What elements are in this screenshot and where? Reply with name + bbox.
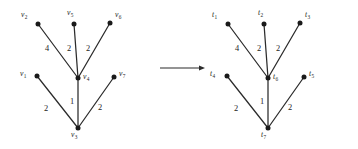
vertex-label-subscript: 4	[212, 73, 215, 79]
transformation-arrow	[160, 65, 205, 70]
vertex-label-subscript: 3	[307, 14, 310, 20]
vertex-label-t4: t4	[210, 70, 215, 78]
graph-canvas	[0, 0, 358, 149]
vertex-label-t2: t2	[258, 9, 263, 17]
vertex-label-v2: v2	[21, 11, 27, 19]
edge-v6-v4	[78, 23, 110, 78]
edge-v7-v3	[78, 77, 114, 128]
vertex-v3[interactable]	[76, 126, 81, 131]
vertex-label-subscript: 6	[275, 76, 278, 82]
vertex-t2[interactable]	[262, 22, 267, 27]
vertex-v2[interactable]	[36, 22, 41, 27]
vertex-label-subscript: 5	[311, 73, 314, 79]
vertex-label-t6: t6	[273, 73, 278, 81]
vertex-label-base: v	[119, 69, 122, 78]
edge-v2-v4	[38, 24, 78, 78]
figure-root: v1v2v3v4v5v6v7422212t1t2t3t4t5t6t7422212	[0, 0, 358, 149]
edge-weight-t6-t7: 1	[260, 98, 264, 106]
vertex-v7[interactable]	[112, 75, 117, 80]
edge-t1-t6	[228, 24, 268, 78]
vertex-label-v3: v3	[71, 131, 77, 139]
edge-weight-v7-v3: 2	[98, 104, 102, 112]
edge-weight-v5-v4: 2	[67, 45, 71, 53]
vertex-label-subscript: 2	[260, 12, 263, 18]
edge-t2-t6	[264, 24, 268, 78]
vertex-label-base: v	[83, 72, 86, 81]
vertex-label-v4: v4	[83, 73, 89, 81]
edge-weight-v1-v3: 2	[44, 105, 48, 113]
vertex-t4[interactable]	[225, 74, 230, 79]
vertex-label-subscript: 1	[214, 14, 217, 20]
vertex-t7[interactable]	[266, 126, 271, 131]
vertex-label-v5: v5	[67, 9, 73, 17]
edge-weight-t4-t7: 2	[234, 105, 238, 113]
edge-t3-t6	[268, 23, 300, 78]
edge-weight-v6-v4: 2	[86, 45, 90, 53]
vertex-label-v6: v6	[115, 11, 121, 19]
vertex-t3[interactable]	[298, 21, 303, 26]
vertex-label-t3: t3	[305, 11, 310, 19]
vertex-t5[interactable]	[302, 75, 307, 80]
edge-weight-t5-t7: 2	[288, 104, 292, 112]
edge-weight-v2-v4: 4	[45, 45, 49, 53]
edge-v5-v4	[74, 24, 78, 78]
edge-t5-t7	[268, 77, 304, 128]
edge-weight-t2-t6: 2	[257, 45, 261, 53]
edge-weight-t1-t6: 4	[235, 45, 239, 53]
vertex-label-subscript: 7	[263, 134, 266, 140]
left-weighted-tree-edges	[37, 23, 114, 128]
vertex-label-t1: t1	[212, 11, 217, 19]
vertex-label-base: v	[71, 130, 74, 139]
vertex-label-t7: t7	[261, 131, 266, 139]
vertex-label-v7: v7	[119, 70, 125, 78]
vertex-t6[interactable]	[266, 76, 271, 81]
vertex-v6[interactable]	[108, 21, 113, 26]
edge-weight-t3-t6: 2	[276, 45, 280, 53]
vertex-label-base: v	[67, 8, 70, 17]
vertex-label-base: v	[21, 10, 24, 19]
vertex-label-v1: v1	[20, 70, 26, 78]
right-weighted-tree-edges	[227, 23, 304, 128]
vertex-v5[interactable]	[72, 22, 77, 27]
vertex-v4[interactable]	[76, 76, 81, 81]
vertex-label-t5: t5	[309, 70, 314, 78]
vertex-v1[interactable]	[35, 74, 40, 79]
edge-weight-v4-v3: 1	[70, 98, 74, 106]
vertex-label-base: v	[20, 69, 23, 78]
vertex-t1[interactable]	[226, 22, 231, 27]
arrow-head-icon	[199, 65, 205, 70]
vertex-label-base: v	[115, 10, 118, 19]
